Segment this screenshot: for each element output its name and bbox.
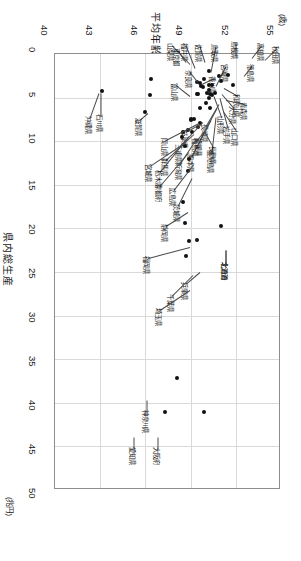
point-label: 富山県 [170, 83, 179, 100]
point-label: 愛知県 [128, 447, 137, 464]
point-label: 佐賀県 [194, 44, 203, 61]
point-label: 北海道 [220, 262, 229, 279]
point-label: 埼玉県 [154, 308, 163, 325]
point-label: 滋賀県 [134, 118, 143, 135]
point-label: 宮崎県 [220, 64, 229, 81]
point-label: 高知県 [256, 43, 265, 60]
point-label: 秋田県 [271, 46, 280, 63]
point-label: 香川県 [208, 76, 217, 93]
point-label: 沖縄県 [84, 116, 93, 133]
label-layer: 秋田県高知県島根県徳島県鳥取県佐賀県福井県山梨県宮崎県和歌山県香川県奈良県大分県… [0, 0, 301, 561]
point-label: 山口県 [230, 128, 239, 145]
point-label: 奈良県 [184, 70, 193, 87]
point-label: 徳島県 [246, 64, 255, 81]
point-label: 広島県 [168, 188, 177, 205]
point-label: 静岡県 [160, 224, 169, 241]
scatter-chart: 平均年齢 (歳) 県内総生産 (兆円) 40 43 46 49 52 55 0 … [0, 0, 301, 561]
point-label: 鳥取県 [210, 44, 219, 61]
point-label: 島根県 [230, 41, 239, 58]
callout-leader [148, 247, 190, 259]
point-label: 宮城県 [144, 164, 153, 181]
point-label: 東京都 [172, 48, 181, 65]
point-label: 京都府 [154, 184, 163, 201]
point-label: 大阪府 [152, 447, 161, 464]
point-label: 福岡県 [142, 256, 151, 273]
point-label: 青森県 [239, 102, 248, 119]
point-label: 長野県 [208, 146, 217, 163]
point-label: 神奈川県 [141, 410, 150, 433]
point-label: 石川県 [95, 114, 104, 131]
